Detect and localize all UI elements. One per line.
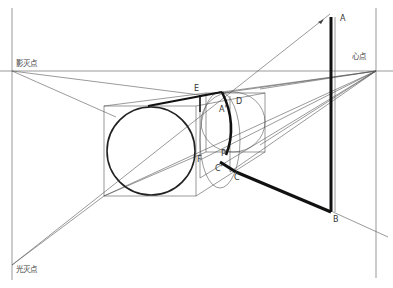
light-vanishing-point-label: 光灭点 xyxy=(16,266,37,274)
label-p-prime: P' xyxy=(221,150,228,158)
cp-ray-6 xyxy=(230,71,376,172)
light-ray-lower xyxy=(12,196,104,265)
cp-ray-8 xyxy=(200,71,376,160)
label-a-prime: A' xyxy=(219,106,227,114)
label-b: B xyxy=(333,216,339,224)
label-e: E xyxy=(194,85,199,93)
cp-ray-5 xyxy=(200,71,376,178)
cp-ray-7 xyxy=(260,71,376,145)
label-a-top: A xyxy=(340,15,345,23)
label-c: C xyxy=(234,174,240,182)
shadow-ray-1 xyxy=(12,71,200,95)
box-edge-bottom-left xyxy=(104,152,206,196)
label-d: D xyxy=(236,98,242,106)
shadow-vanishing-point-label: 影灭点 xyxy=(16,60,37,68)
front-circle xyxy=(107,107,195,195)
shadow-c-b xyxy=(236,172,331,212)
center-point-label: 心点 xyxy=(352,53,366,61)
label-f: F xyxy=(197,156,202,164)
label-c-prime: C' xyxy=(215,165,223,173)
ground-line-b xyxy=(333,212,388,237)
light-ray-main xyxy=(12,14,330,265)
perspective-shadow-diagram xyxy=(0,0,393,288)
light-ray-arrow-icon xyxy=(318,19,324,24)
